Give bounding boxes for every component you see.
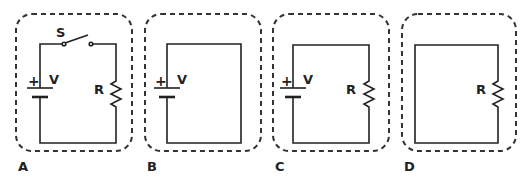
switch-label: S <box>56 25 65 40</box>
resistor-label: R <box>94 82 104 97</box>
battery-plus-sign: + <box>28 73 40 89</box>
switch-lever <box>65 35 88 43</box>
panel-b-circuit <box>154 44 241 143</box>
resistor-label: R <box>476 82 486 97</box>
battery-label: V <box>303 72 313 87</box>
resistor-label: R <box>346 82 356 97</box>
panel-d-label: D <box>404 159 415 174</box>
resistor-icon <box>111 78 121 112</box>
panel-a-label: A <box>18 159 28 174</box>
panel-c-circuit <box>280 45 374 143</box>
battery-label: V <box>177 72 187 87</box>
resistor-icon <box>364 78 374 112</box>
battery-plus-sign: + <box>155 73 167 89</box>
panel-b-label: B <box>147 159 157 174</box>
panel-c-label: C <box>275 159 285 174</box>
resistor-icon <box>493 78 503 112</box>
panel-a-circuit <box>27 35 121 143</box>
panel-d-frame <box>402 14 516 151</box>
battery-plus-sign: + <box>281 73 293 89</box>
battery-label: V <box>49 72 59 87</box>
panel-d-circuit <box>415 45 503 143</box>
circuit-diagrams: + V S R A + V B + V R C R D <box>0 0 527 178</box>
